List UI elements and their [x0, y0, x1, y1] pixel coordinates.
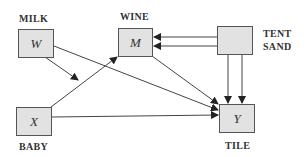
node-y: Y: [219, 104, 255, 133]
node-symbol-w: W: [31, 36, 42, 52]
node-w: W: [18, 29, 54, 58]
edge-x-m: [51, 57, 117, 107]
node-symbol-m: M: [130, 35, 141, 51]
node-symbol-x: X: [30, 114, 38, 130]
node-m: M: [118, 28, 153, 57]
node-label-wine: WINE: [120, 11, 149, 23]
node-tent-sand: [217, 26, 253, 55]
node-label-sand: SAND: [263, 41, 291, 53]
edge-x-y: [52, 115, 218, 117]
node-label-tent: TENT: [263, 28, 291, 40]
node-label-milk: MILK: [19, 13, 48, 25]
node-label-tile: TILE: [225, 140, 250, 152]
node-x: X: [16, 107, 52, 136]
edge-w-moderates-xm: [45, 57, 78, 80]
node-symbol-y: Y: [233, 111, 240, 127]
node-label-baby: BABY: [19, 141, 48, 153]
